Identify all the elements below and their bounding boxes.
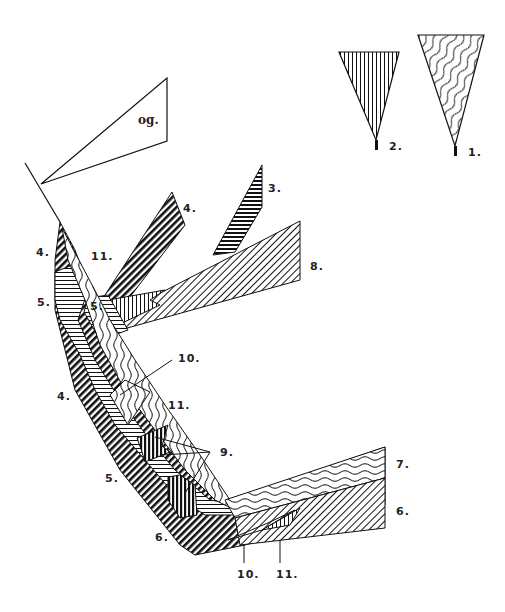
band-3 xyxy=(213,165,262,255)
label-4-top: 4. xyxy=(183,202,197,215)
legend-2-label: 2. xyxy=(389,140,403,153)
label-5-inner: 5. xyxy=(90,300,104,313)
label-11-bottom: 11. xyxy=(276,568,299,581)
diagram-canvas xyxy=(0,0,505,612)
label-8: 8. xyxy=(310,260,324,273)
legend-1-label: 1. xyxy=(468,146,482,159)
legend-2-symbol xyxy=(339,52,399,150)
label-9: 9. xyxy=(220,446,234,459)
label-11-mid: 11. xyxy=(168,399,191,412)
callout-label: og. xyxy=(138,113,159,127)
label-3: 3. xyxy=(268,182,282,195)
label-4-left: 4. xyxy=(36,246,50,259)
label-11-top: 11. xyxy=(91,250,114,263)
label-5-lower: 5. xyxy=(105,472,119,485)
label-6-right: 6. xyxy=(396,505,410,518)
label-10-mid: 10. xyxy=(178,352,201,365)
label-10-bottom: 10. xyxy=(237,568,260,581)
legend-1-symbol xyxy=(418,35,484,156)
label-7: 7. xyxy=(396,458,410,471)
callout-triangle xyxy=(25,78,167,222)
label-6-left: 6. xyxy=(155,531,169,544)
label-4-lower: 4. xyxy=(57,390,71,403)
label-5-left: 5. xyxy=(37,296,51,309)
